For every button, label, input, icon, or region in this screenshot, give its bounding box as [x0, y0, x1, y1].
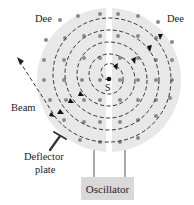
dee-left-label: Dee — [35, 14, 52, 25]
beam-arrowhead — [17, 57, 24, 65]
oscillator-box: Oscillator — [81, 177, 134, 200]
source-label: S — [105, 83, 111, 93]
deflector-label-line1: Deflector — [24, 152, 64, 163]
beam-label: Beam — [11, 103, 36, 114]
deflector-label-line2: plate — [35, 165, 55, 176]
dee-right-label: Dee — [167, 14, 184, 25]
source-point — [107, 77, 112, 82]
